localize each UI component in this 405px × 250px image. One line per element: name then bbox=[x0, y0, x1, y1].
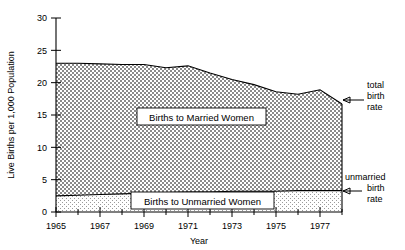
y-tick-label: 5 bbox=[42, 175, 47, 185]
y-tick-label: 20 bbox=[37, 78, 47, 88]
x-tick-label: 1967 bbox=[90, 221, 110, 231]
series-label-unmarried-women: Births to Unmarried Women bbox=[131, 192, 274, 209]
plot-area-fills bbox=[56, 63, 342, 212]
x-tick-label: 1965 bbox=[46, 221, 66, 231]
y-tick-label: 10 bbox=[37, 143, 47, 153]
y-axis-title: Live Births per 1,000 Population bbox=[6, 51, 16, 179]
annotation-unmarried-birth-rate: unmarried birth rate bbox=[343, 172, 386, 204]
area-married-women bbox=[56, 63, 342, 212]
series-label-married-text: Births to Married Women bbox=[149, 112, 254, 123]
y-tick-label: 25 bbox=[37, 46, 47, 56]
y-axis-tick-labels: 051015202530 bbox=[37, 13, 47, 217]
unmarried-birth-rate-line-3: rate bbox=[367, 194, 383, 204]
x-tick-label: 1977 bbox=[310, 221, 330, 231]
y-tick-label: 15 bbox=[37, 110, 47, 120]
series-label-married-women: Births to Married Women bbox=[137, 108, 266, 125]
series-label-unmarried-text: Births to Unmarried Women bbox=[144, 196, 261, 207]
y-tick-label: 30 bbox=[37, 13, 47, 23]
annotation-total-birth-rate: total birth rate bbox=[343, 80, 385, 112]
total-birth-rate-line-1: total bbox=[367, 80, 384, 90]
unmarried-birth-rate-line-2: birth bbox=[367, 183, 385, 193]
x-tick-label: 1973 bbox=[222, 221, 242, 231]
x-tick-label: 1975 bbox=[266, 221, 286, 231]
y-tick-label: 0 bbox=[42, 207, 47, 217]
x-axis-tick-labels: 1965196719691971197319751977 bbox=[46, 221, 330, 231]
x-axis-title: Year bbox=[190, 236, 208, 246]
total-birth-rate-line-2: birth bbox=[367, 91, 385, 101]
x-tick-label: 1971 bbox=[178, 221, 198, 231]
unmarried-birth-rate-line-1: unmarried bbox=[345, 172, 386, 182]
x-tick-label: 1969 bbox=[134, 221, 154, 231]
total-birth-rate-line-3: rate bbox=[367, 102, 383, 112]
chart-canvas: 051015202530 196519671969197119731975197… bbox=[0, 0, 405, 250]
birth-rate-area-chart: 051015202530 196519671969197119731975197… bbox=[0, 0, 405, 250]
